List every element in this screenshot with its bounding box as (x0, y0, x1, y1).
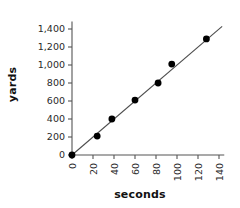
y-tick-label: 400 (47, 113, 65, 124)
x-tick-label: 60 (130, 163, 141, 175)
y-tick-label: 800 (47, 77, 65, 88)
y-tick-label: 1,000 (38, 59, 65, 70)
axis-tick-labels: 02004006008001,0001,2001,400020406080100… (38, 23, 225, 181)
data-point (203, 36, 210, 43)
scatter-chart: 02004006008001,0001,2001,400020406080100… (0, 0, 240, 208)
y-tick-label: 1,400 (38, 23, 65, 34)
y-tick-label: 600 (47, 95, 65, 106)
x-tick-label: 100 (172, 163, 183, 181)
x-tick-label: 20 (88, 163, 99, 175)
data-point (155, 80, 162, 87)
x-axis-title: seconds (100, 188, 180, 201)
y-tick-label: 0 (59, 149, 65, 160)
data-point (168, 61, 175, 68)
data-point (69, 152, 76, 159)
x-tick-label: 0 (67, 163, 78, 169)
x-tick-label: 80 (151, 163, 162, 175)
data-point (109, 116, 116, 123)
y-tick-label: 1,200 (38, 41, 65, 52)
data-point (132, 97, 139, 104)
x-tick-label: 40 (109, 163, 120, 175)
x-tick-label: 120 (193, 163, 204, 181)
x-tick-label: 140 (214, 163, 225, 181)
y-axis-title: yards (6, 61, 19, 109)
y-tick-label: 200 (47, 131, 65, 142)
data-point (94, 133, 101, 140)
plot-area: 02004006008001,0001,2001,400020406080100… (0, 0, 240, 208)
